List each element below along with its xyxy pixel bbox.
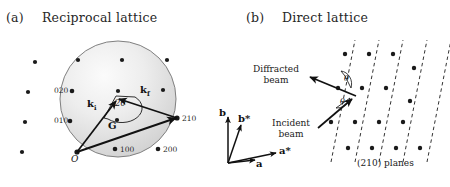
crystallography-figure: (a) Reciprocal lattice (b) Direct lattic… bbox=[0, 0, 450, 187]
angle-label-theta-diffracted: θ bbox=[344, 74, 349, 83]
axis-label-b-star: b* bbox=[238, 113, 250, 124]
diffracted-beam-arrow bbox=[310, 77, 356, 96]
origin-label: O bbox=[71, 154, 78, 164]
point-label-210: 210 bbox=[182, 114, 196, 123]
axis-label-a: a bbox=[256, 158, 262, 169]
point-label-200: 200 bbox=[163, 145, 177, 154]
point-label-020: 020 bbox=[54, 86, 68, 95]
angle-label-theta-incident: θ bbox=[340, 97, 345, 106]
point-label-010: 010 bbox=[54, 116, 68, 125]
point-label-100: 100 bbox=[120, 145, 134, 154]
angle-label-two-theta: 2θ bbox=[115, 98, 126, 108]
diffracted-beam-label: Diffracted beam bbox=[244, 64, 308, 86]
vector-label-k-i: ki bbox=[87, 98, 96, 112]
incident-beam-label: Incident beam bbox=[262, 118, 320, 140]
planes-label: (210) planes bbox=[357, 158, 414, 168]
axis-label-a-star: a* bbox=[279, 145, 291, 156]
axis-label-b: b bbox=[219, 107, 226, 118]
vector-label-G: G bbox=[108, 120, 117, 131]
vector-label-k-f: kf bbox=[140, 84, 150, 98]
